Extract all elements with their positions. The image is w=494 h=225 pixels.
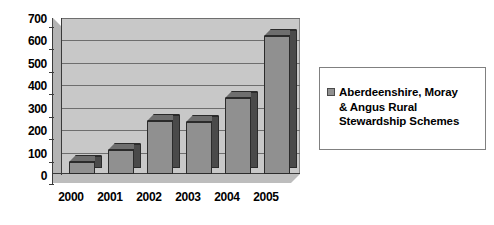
y-tick-mark: [49, 162, 54, 163]
bar-front-face: [225, 98, 251, 174]
plot-area: [52, 18, 300, 183]
y-tick-label: 0: [3, 171, 47, 181]
bar-front-face: [69, 162, 95, 174]
bar-side-face: [173, 115, 180, 168]
legend-entry-label: Aberdeenshire, Moray & Angus Rural Stewa…: [339, 85, 459, 129]
y-tick-label: 200: [3, 126, 47, 136]
y-tick-label: 400: [3, 81, 47, 91]
bar-2005: [264, 36, 290, 174]
y-tick-mark: [49, 184, 54, 185]
y-tick-mark: [49, 139, 54, 140]
bar-side-face: [95, 156, 102, 168]
bar-front-face: [264, 36, 290, 174]
bar-2004: [225, 98, 251, 174]
y-tick-label: 700: [3, 14, 47, 24]
bar-chart: 700 600 500 400 300 200 100 0: [0, 0, 310, 225]
bar-side-face: [290, 30, 297, 168]
legend-entry: Aberdeenshire, Moray & Angus Rural Stewa…: [327, 85, 481, 129]
y-tick-mark: [49, 72, 54, 73]
y-tick-label: 300: [3, 104, 47, 114]
y-axis-labels: 700 600 500 400 300 200 100 0: [0, 0, 47, 225]
chart-legend: Aberdeenshire, Moray & Angus Rural Stewa…: [319, 67, 486, 150]
y-tick-mark: [49, 94, 54, 95]
y-tick-label: 600: [3, 36, 47, 46]
y-tick-label: 500: [3, 59, 47, 69]
bar-side-face: [251, 92, 258, 168]
bar-series: [61, 17, 300, 174]
bar-2001: [108, 150, 134, 174]
y-axis-outer-line: [52, 27, 53, 184]
chart-screenshot: 700 600 500 400 300 200 100 0: [0, 0, 494, 225]
bar-front-face: [186, 122, 212, 174]
y-tick-label: 100: [3, 149, 47, 159]
bar-2003: [186, 122, 212, 174]
bar-2000: [69, 162, 95, 174]
bar-2002: [147, 121, 173, 174]
bar-front-face: [147, 121, 173, 174]
bar-front-face: [108, 150, 134, 174]
x-tick-label-2005: 2005: [243, 190, 289, 204]
legend-swatch-icon: [327, 88, 335, 96]
plot-floor: [52, 174, 300, 183]
y-tick-mark: [49, 49, 54, 50]
y-tick-mark: [49, 27, 54, 28]
bar-side-face: [134, 144, 141, 168]
x-axis-labels: 2000 2001 2002 2003 2004 2005: [52, 190, 300, 210]
y-tick-mark: [49, 117, 54, 118]
bar-side-face: [212, 116, 219, 168]
